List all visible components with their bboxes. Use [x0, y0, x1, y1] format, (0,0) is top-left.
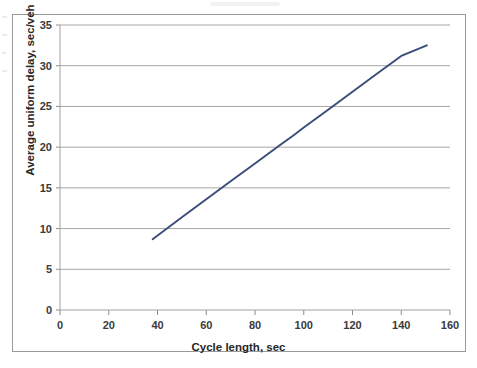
chart-border — [12, 14, 466, 352]
x-tick-label: 60 — [200, 319, 212, 331]
x-tick-label: 120 — [343, 319, 361, 331]
x-tick-label: 20 — [103, 319, 115, 331]
scan-artifact — [2, 34, 7, 36]
scan-artifact — [210, 2, 280, 6]
x-tick-label: 0 — [57, 319, 63, 331]
chart-figure: 05101520253035 020406080100120140160 Ave… — [0, 0, 477, 368]
y-tick-label: 0 — [26, 304, 52, 316]
x-tick-label: 80 — [249, 319, 261, 331]
scan-artifact — [2, 70, 7, 72]
x-tick-label: 160 — [441, 319, 459, 331]
x-axis-title: Cycle length, sec — [0, 341, 477, 353]
scan-artifact — [2, 52, 6, 54]
x-tick-label: 40 — [151, 319, 163, 331]
y-axis-title: Average uniform delay, sec/veh — [24, 0, 36, 200]
scan-artifact — [2, 16, 7, 18]
y-tick-label: 5 — [26, 263, 52, 275]
x-tick-label: 100 — [295, 319, 313, 331]
x-tick-label: 140 — [392, 319, 410, 331]
y-tick-label: 10 — [26, 223, 52, 235]
